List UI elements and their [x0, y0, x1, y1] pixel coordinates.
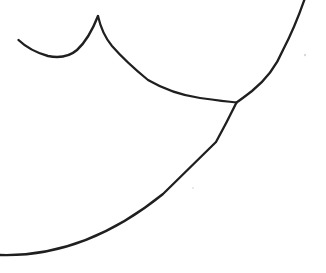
paper-speck-2: [192, 187, 194, 189]
scallop-dip-curve: [19, 16, 99, 57]
line-drawing: [0, 0, 326, 273]
cusp-right-descending-curve: [98, 16, 237, 103]
upper-right-arc: [237, 0, 306, 103]
sketch-page: [0, 0, 326, 273]
lower-sweep-curve: [0, 103, 237, 256]
paper-speck-1: [304, 54, 306, 56]
